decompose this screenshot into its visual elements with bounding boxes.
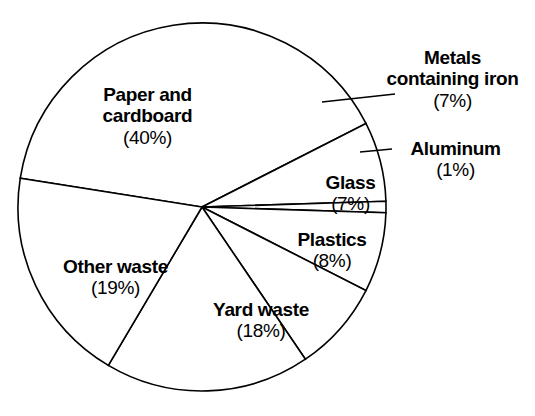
slice-label-percent: (19%) xyxy=(38,277,193,298)
slice-label-name-line2: containing iron xyxy=(370,68,535,89)
slice-label-yard-waste: Yard waste (18%) xyxy=(186,299,336,342)
slice-label-percent: (8%) xyxy=(272,250,392,271)
slice-label-name: Plastics xyxy=(272,229,392,250)
slice-label-name: Yard waste xyxy=(186,299,336,320)
slice-label-percent: (7%) xyxy=(370,90,535,111)
slice-label-name: Paper and xyxy=(60,84,235,105)
slice-label-paper-and-cardboard: Paper and cardboard (40%) xyxy=(60,84,235,148)
slice-label-percent: (40%) xyxy=(60,127,235,148)
pie-chart-figure: Composition of Waste by Weight Paper and… xyxy=(0,0,535,416)
slice-label-name: Glass xyxy=(298,172,403,193)
slice-label-name: Metals xyxy=(370,47,535,68)
slice-label-percent: (18%) xyxy=(186,320,336,341)
slice-label-percent: (7%) xyxy=(298,193,403,214)
slice-label-name: Other waste xyxy=(38,256,193,277)
slice-label-glass: Glass (7%) xyxy=(298,172,403,215)
slice-label-name-line2: cardboard xyxy=(60,105,235,126)
slice-label-name: Aluminum xyxy=(378,138,533,159)
slice-label-plastics: Plastics (8%) xyxy=(272,229,392,272)
slice-label-metals-containing-iron: Metals containing iron (7%) xyxy=(370,47,535,111)
slice-label-other-waste: Other waste (19%) xyxy=(38,256,193,299)
